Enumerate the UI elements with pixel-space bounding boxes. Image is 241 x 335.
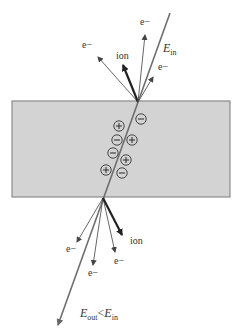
bottom-ion-label-3: ion (130, 235, 143, 246)
bottom-emission-arrows: e−e−e−ion (66, 198, 143, 278)
top-electron-arrow-0 (98, 57, 138, 102)
ion-beam-diagram: e−ione−e− e−e−e−ion EinEout<Ein (0, 0, 241, 335)
negative-charge-icon (112, 135, 122, 145)
bottom-electron-arrow-1 (93, 198, 103, 265)
bottom-electron-label-0: e− (66, 243, 76, 254)
bottom-electron-label-2: e− (114, 255, 124, 266)
bottom-ion-arrow-3 (103, 198, 122, 235)
top-electron-label-3: e− (158, 61, 168, 72)
positive-charge-icon (121, 155, 131, 165)
e-in-label: Ein (162, 41, 177, 57)
top-ion-arrow-1 (123, 65, 138, 102)
top-electron-label-2: e− (140, 16, 150, 27)
bottom-electron-label-1: e− (88, 267, 98, 278)
negative-charge-icon (136, 114, 146, 124)
bottom-electron-arrow-2 (103, 198, 115, 252)
negative-charge-icon (108, 148, 118, 158)
top-ion-label-1: ion (116, 50, 129, 61)
positive-charge-icon (114, 121, 124, 131)
positive-charge-icon (127, 135, 137, 145)
negative-charge-icon (117, 168, 127, 178)
top-electron-label-0: e− (82, 39, 92, 50)
e-out-label: Eout<Ein (79, 306, 118, 322)
top-emission-arrows: e−ione−e− (82, 16, 168, 102)
positive-charge-icon (101, 165, 111, 175)
